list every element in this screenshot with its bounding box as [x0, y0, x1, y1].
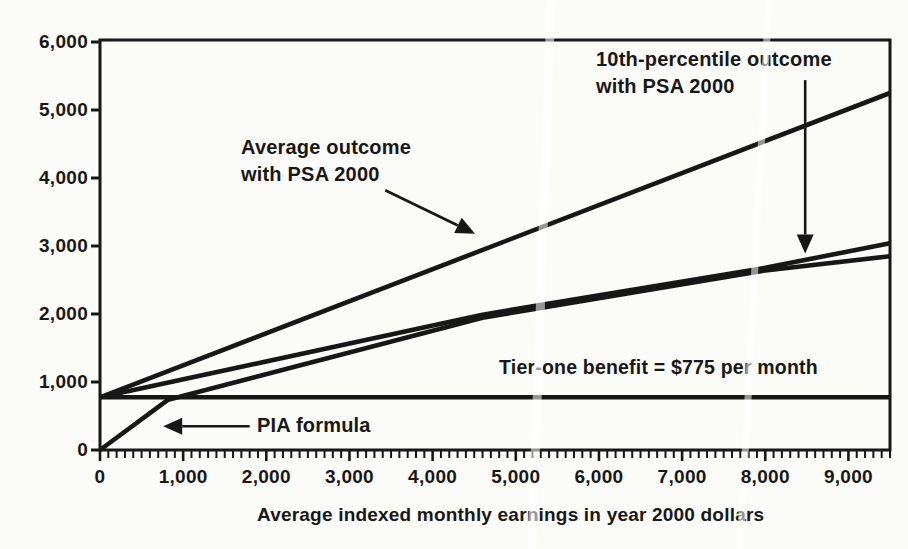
- annotation-arrow-shaft: [385, 190, 458, 225]
- x-tick-label: 1,000: [138, 465, 228, 489]
- y-tick-label: 0: [0, 438, 88, 462]
- annotation-tenth-percentile-outcome: 10th-percentile outcome with PSA 2000: [596, 46, 832, 100]
- annotation-tenth-percentile-line2: with PSA 2000: [596, 73, 832, 100]
- y-tick-label: 3,000: [0, 234, 88, 258]
- annotation-arrowhead: [163, 418, 182, 435]
- x-tick-label: 5,000: [471, 465, 561, 489]
- series-line: [100, 93, 890, 397]
- x-axis-title: Average indexed monthly earnings in year…: [257, 504, 764, 526]
- x-tick-label: 8,000: [720, 465, 810, 489]
- x-tick-label: 7,000: [637, 465, 727, 489]
- annotation-average-outcome-line2: with PSA 2000: [241, 161, 411, 188]
- x-tick-label: 0: [55, 465, 145, 489]
- y-tick-label: 4,000: [0, 166, 88, 190]
- annotation-arrowhead: [797, 234, 814, 253]
- annotation-tenth-percentile-line1: 10th-percentile outcome: [596, 46, 832, 73]
- y-tick-label: 1,000: [0, 370, 88, 394]
- annotation-pia-formula: PIA formula: [257, 412, 371, 439]
- x-tick-label: 9,000: [803, 465, 893, 489]
- y-tick-label: 6,000: [0, 30, 88, 54]
- y-tick-label: 2,000: [0, 302, 88, 326]
- y-tick-label: 5,000: [0, 98, 88, 122]
- annotation-average-outcome-line1: Average outcome: [241, 134, 411, 161]
- annotation-tier-one-benefit: Tier-one benefit = $775 per month: [499, 354, 818, 381]
- annotation-average-outcome: Average outcome with PSA 2000: [241, 134, 411, 188]
- x-tick-label: 3,000: [304, 465, 394, 489]
- x-tick-label: 2,000: [221, 465, 311, 489]
- x-tick-label: 6,000: [554, 465, 644, 489]
- scanned-line-chart-figure: Average outcome with PSA 2000 10th-perce…: [0, 0, 908, 549]
- x-tick-label: 4,000: [388, 465, 478, 489]
